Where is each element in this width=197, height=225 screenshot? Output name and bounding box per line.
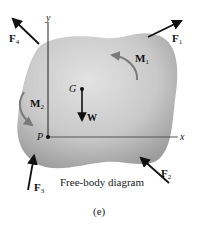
- force-f4-label: F4: [9, 32, 20, 46]
- origin-label: P: [36, 131, 43, 142]
- force-f1-label: F1: [172, 32, 183, 46]
- diagram-caption: Free-body diagram: [60, 176, 144, 188]
- rigid-body: [17, 33, 177, 168]
- center-of-gravity-label: G: [69, 83, 76, 94]
- free-body-diagram: y x P G W F1 F4 F3 F2 M1 M2 Free-body di…: [0, 0, 197, 225]
- diagram-sublabel: (e): [93, 205, 106, 218]
- origin-point: [46, 135, 50, 139]
- weight-label: W: [87, 112, 97, 123]
- force-f3-label: F3: [34, 181, 45, 195]
- x-axis-label: x: [179, 131, 185, 142]
- y-axis-label: y: [45, 12, 51, 23]
- force-f2-label: F2: [161, 167, 172, 181]
